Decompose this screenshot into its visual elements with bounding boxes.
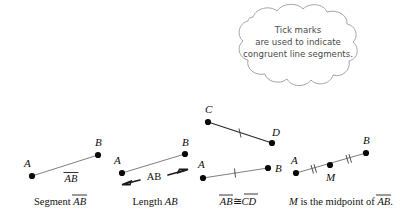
point-a-dot xyxy=(29,173,35,179)
panel-length-ab: A B AB Length AB xyxy=(113,136,189,207)
tick-mark-ab-1 xyxy=(235,169,236,178)
measure-arrow-left-head xyxy=(122,181,131,185)
point-a-label: A xyxy=(113,154,121,166)
figure-canvas: Tick marks are used to indicate congruen… xyxy=(0,0,401,216)
panel-3-caption: AB≅CD xyxy=(219,196,257,207)
panel-segment-ab: A B AB Segment AB xyxy=(23,136,102,207)
point-b-dot xyxy=(95,152,101,158)
panel-2-caption: Length AB xyxy=(132,196,178,207)
point-c-label: C xyxy=(205,103,213,115)
caption-term-left: AB xyxy=(219,196,233,207)
caption-term: AB xyxy=(164,196,178,207)
cloud-text-line1: Tick marks xyxy=(274,25,322,35)
measure-arrow-right-head xyxy=(178,169,188,172)
caption-prefix: Segment xyxy=(34,196,73,207)
cloud-text-line2: are used to indicate xyxy=(255,37,341,47)
point-a-label: A xyxy=(290,154,298,166)
point-a-label: A xyxy=(23,157,31,169)
segment-cd: C D xyxy=(205,103,280,146)
point-b-label: B xyxy=(275,162,282,174)
tick-marks-mb xyxy=(346,154,352,163)
caption-middle: is the midpoint of xyxy=(298,196,378,207)
tick-mark-mb-1 xyxy=(346,155,349,164)
segment-ab: A B xyxy=(197,158,282,181)
panel-midpoint: A M B M is the midpoint of AB. xyxy=(288,134,393,207)
caption-suffix: . xyxy=(390,196,393,207)
caption-prefix: Length xyxy=(132,196,164,207)
point-a-label: A xyxy=(197,158,205,170)
caption-term: AB xyxy=(72,196,86,207)
point-b-dot xyxy=(363,150,369,156)
caption-term: AB xyxy=(376,196,390,207)
length-ab-inline-label: AB xyxy=(147,171,162,182)
cloud-text-line3: congruent line segments. xyxy=(243,49,353,59)
caption-term-right: CD xyxy=(242,196,257,207)
caption-congruence-symbol: ≅ xyxy=(233,196,242,207)
geometry-figure: Tick marks are used to indicate congruen… xyxy=(0,0,401,216)
point-d-dot xyxy=(269,140,275,146)
point-b-label: B xyxy=(363,134,370,146)
point-m-dot xyxy=(327,162,333,168)
tick-mark-mb-2 xyxy=(349,154,352,163)
panel-congruent-segments: C D A B AB≅CD xyxy=(197,103,282,207)
point-b-dot xyxy=(182,151,188,157)
panel-4-caption: M is the midpoint of AB. xyxy=(288,196,393,207)
point-c-dot xyxy=(205,119,211,125)
point-b-dot xyxy=(265,165,271,171)
tick-mark-am-2 xyxy=(314,164,317,173)
tick-mark-am-1 xyxy=(311,165,314,174)
tick-marks-am xyxy=(311,164,317,173)
point-b-label: B xyxy=(95,136,102,148)
panel-1-caption: Segment AB xyxy=(34,196,87,207)
point-a-dot xyxy=(200,175,206,181)
point-d-label: D xyxy=(271,126,280,138)
point-b-label: B xyxy=(182,136,189,148)
point-m-label: M xyxy=(325,171,336,183)
point-a-dot xyxy=(119,170,125,176)
segment-ab-inline-label: AB xyxy=(64,173,78,184)
point-a-dot xyxy=(293,170,299,176)
tick-marks-cloud: Tick marks are used to indicate congruen… xyxy=(239,4,357,85)
